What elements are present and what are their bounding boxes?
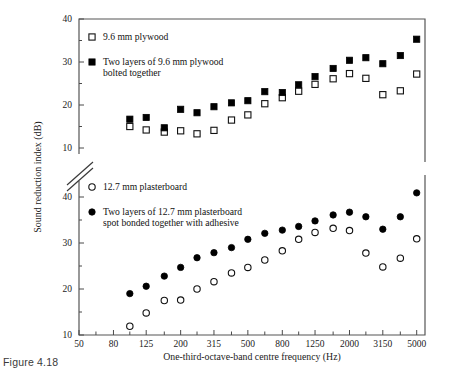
data-point [330,212,336,218]
x-tick-label: 800 [275,339,290,349]
data-point [161,125,167,131]
data-point [211,249,217,255]
y-tick-label-lower: 10 [63,330,73,340]
data-point [397,88,403,94]
x-tick-label: 315 [207,339,222,349]
x-axis-title: One-third-octave-band centre frequency (… [163,351,341,363]
data-point [178,106,184,112]
data-point [262,101,268,107]
data-point [397,214,403,220]
data-point [346,71,352,77]
y-tick-label-upper: 20 [63,100,73,110]
lower-panel-frame [79,175,425,335]
x-tick-label: 2000 [340,339,359,349]
y-tick-label-lower: 40 [63,192,73,202]
figure-container: 1020304010203040508012520031550080012502… [0,0,449,379]
data-point [228,244,234,250]
data-point [380,226,386,232]
y-tick-label-lower: 30 [63,238,73,248]
data-point [143,310,149,316]
data-point [194,131,200,137]
legend-label-2: 12.7 mm plasterboard [103,181,187,192]
data-point [346,209,352,215]
data-point [211,127,217,133]
data-point [194,255,200,261]
data-point [397,52,403,58]
data-point [143,283,149,289]
data-point [178,128,184,134]
data-point [143,114,149,120]
data-point [312,74,318,80]
data-point [161,273,167,279]
data-point [177,297,183,303]
x-tick-label: 3150 [373,339,392,349]
data-point [279,227,285,233]
data-point [363,250,369,256]
data-point [177,264,183,270]
x-tick-label: 125 [139,339,154,349]
data-point [228,117,234,123]
data-point [262,89,268,95]
data-point [127,123,133,129]
figure-caption: Figure 4.18 [3,356,58,368]
data-point [414,36,420,42]
x-tick-label: 1250 [306,339,325,349]
legend-label-0: 9.6 mm plywood [103,31,168,42]
data-point [279,89,285,95]
chart-svg: 1020304010203040508012520031550080012502… [0,0,449,379]
y-tick-label-upper: 10 [63,143,73,153]
data-point [346,57,352,63]
data-point [245,264,251,270]
legend-marker-2 [89,184,95,190]
data-point [296,82,302,88]
legend-label-3: Two layers of 12.7 mm plasterboard [103,206,242,217]
legend-label-1: Two layers of 9.6 mm plywood [103,56,224,67]
data-point [330,225,336,231]
data-point [312,229,318,235]
data-point [295,236,301,242]
data-point [127,116,133,122]
y-axis-title: Sound reduction index (dB) [32,121,44,232]
x-tick-label: 200 [174,339,189,349]
data-point [413,236,419,242]
data-point [312,81,318,87]
data-point [414,71,420,77]
data-point [262,257,268,263]
data-point [194,286,200,292]
data-point [143,127,149,133]
data-point [346,227,352,233]
data-point [413,190,419,196]
data-point [245,236,251,242]
data-point [380,264,386,270]
data-point [363,214,369,220]
legend-marker-0 [89,34,95,40]
legend-marker-1 [89,59,95,65]
data-point [279,248,285,254]
data-point [330,65,336,71]
data-point [295,223,301,229]
y-tick-label-upper: 30 [63,57,73,67]
data-point [127,290,133,296]
data-point [245,112,251,118]
data-point [296,88,302,94]
x-tick-label: 80 [109,339,119,349]
x-tick-label: 5000 [407,339,426,349]
data-point [363,75,369,81]
data-point [380,92,386,98]
data-point [211,104,217,110]
data-point [194,110,200,116]
data-point [127,323,133,329]
data-point [161,297,167,303]
data-point [262,230,268,236]
data-point [228,100,234,106]
data-point [312,218,318,224]
y-tick-label-upper: 40 [63,14,73,24]
legend-label-3-line2: spot bonded together with adhesive [103,217,239,228]
data-point [397,255,403,261]
data-point [245,98,251,104]
data-point [330,76,336,82]
x-tick-label: 500 [241,339,256,349]
axis-break-line-1 [67,162,93,185]
legend-label-1-line2: bolted together [103,67,162,78]
x-tick-label: 50 [74,339,84,349]
